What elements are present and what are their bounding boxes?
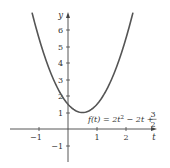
y-tick-label-3: 3 <box>58 76 63 85</box>
y-axis-label: y <box>57 10 63 20</box>
parabola-curve <box>32 13 133 113</box>
y-tick-label-1: 1 <box>58 109 63 118</box>
y-tick-label-neg1: −1 <box>51 142 63 151</box>
function-label-main: f(t) = 2t <box>87 115 121 124</box>
y-axis: −1 1 2 3 4 5 6 y <box>51 10 70 162</box>
y-tick-label-5: 5 <box>58 43 63 52</box>
fraction-numerator: 3 <box>150 110 155 119</box>
function-label: f(t) = 2t2 − 2t + 3 2 <box>87 110 157 129</box>
function-label-rest: − 2t + <box>124 115 153 124</box>
y-tick-label-6: 6 <box>58 26 63 35</box>
x-tick-label-neg1: −1 <box>30 133 42 142</box>
x-tick-label-2: 2 <box>123 133 128 142</box>
x-tick-label-1: 1 <box>94 133 99 142</box>
svg-text:f(t) = 2t2 − 2t +: f(t) = 2t2 − 2t + <box>87 114 153 125</box>
x-axis: −1 1 2 t <box>10 127 157 142</box>
fraction-denominator: 2 <box>150 120 155 129</box>
y-tick-label-4: 4 <box>58 59 63 68</box>
y-axis-arrow-icon <box>66 12 70 18</box>
function-graph: −1 1 2 t −1 1 2 3 4 5 6 y <box>0 0 170 168</box>
x-axis-label: t <box>152 132 156 142</box>
graph-canvas: −1 1 2 t −1 1 2 3 4 5 6 y <box>0 0 170 168</box>
